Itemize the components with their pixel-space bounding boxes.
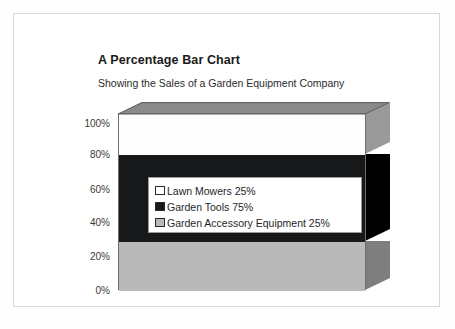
figure-frame: A Percentage Bar Chart Showing the Sales… bbox=[13, 13, 440, 307]
y-tick-label-60: 60% bbox=[90, 184, 110, 195]
bar-segment-garden-accessory bbox=[119, 242, 365, 291]
legend-swatch-icon-lawn-mowers bbox=[155, 186, 165, 195]
y-tick-label-40: 40% bbox=[90, 217, 110, 228]
bar-side-garden-tools bbox=[365, 154, 390, 241]
bar-side-garden-accessory bbox=[365, 241, 390, 290]
legend-swatch-icon-garden-accessory bbox=[155, 218, 165, 227]
y-tick-label-100: 100% bbox=[84, 118, 110, 129]
bar-right-side-faces bbox=[365, 102, 390, 292]
legend-label-lawn-mowers: Lawn Mowers 25% bbox=[167, 185, 256, 197]
legend-item-garden-accessory: Garden Accessory Equipment 25% bbox=[155, 215, 355, 230]
legend-label-garden-tools: Garden Tools 75% bbox=[167, 201, 253, 213]
legend-label-garden-accessory: Garden Accessory Equipment 25% bbox=[167, 217, 330, 229]
y-tick-label-0: 0% bbox=[96, 285, 110, 296]
page-title: A Percentage Bar Chart bbox=[98, 53, 240, 67]
y-axis: 100% 80% 60% 40% 20% 0% bbox=[44, 109, 110, 299]
legend-swatch-icon-garden-tools bbox=[155, 202, 165, 211]
chart-subtitle: Showing the Sales of a Garden Equipment … bbox=[98, 77, 344, 89]
y-tick-label-20: 20% bbox=[90, 251, 110, 262]
y-tick-label-80: 80% bbox=[90, 149, 110, 160]
figure-page: A Percentage Bar Chart Showing the Sales… bbox=[0, 0, 455, 329]
legend-item-lawn-mowers: Lawn Mowers 25% bbox=[155, 183, 355, 198]
chart-legend: Lawn Mowers 25% Garden Tools 75% Garden … bbox=[148, 177, 362, 233]
legend-item-garden-tools: Garden Tools 75% bbox=[155, 199, 355, 214]
bar-segment-lawn-mowers bbox=[119, 114, 365, 155]
